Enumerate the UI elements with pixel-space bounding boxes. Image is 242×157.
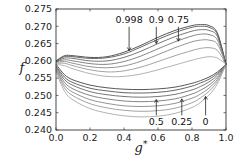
x-tick-label: 0.2	[82, 132, 97, 143]
series-line	[56, 40, 226, 68]
y-tick-label: 0.275	[25, 3, 52, 14]
x-tick-label: 0.4	[116, 132, 131, 143]
annotation-label: 0.25	[171, 116, 192, 127]
annotation-label: 0.5	[149, 116, 164, 127]
y-tick-label: 0.260	[25, 55, 52, 66]
y-tick-label: 0.265	[25, 38, 52, 49]
plot-curves	[56, 25, 226, 117]
y-tick-label: 0.270	[25, 21, 52, 32]
x-axis-label: g*	[135, 139, 148, 155]
line-chart: 0.9980.90.750.50.250 0.00.20.40.60.81.0 …	[0, 0, 242, 157]
y-tick-label: 0.250	[25, 90, 52, 101]
y-tick-label: 0.245	[25, 107, 52, 118]
x-tick-label: 0.8	[184, 132, 199, 143]
plot-frame	[56, 9, 226, 130]
y-tick-label: 0.255	[25, 72, 52, 83]
annotation-label: 0.75	[168, 14, 189, 25]
y-tick-label: 0.240	[25, 124, 52, 135]
x-tick-label: 1.0	[218, 132, 233, 143]
annotation-label: 0	[203, 116, 209, 127]
annotation-label: 0.9	[149, 14, 164, 25]
annotation-label: 0.998	[115, 14, 142, 25]
x-tick-label: 0.6	[150, 132, 165, 143]
